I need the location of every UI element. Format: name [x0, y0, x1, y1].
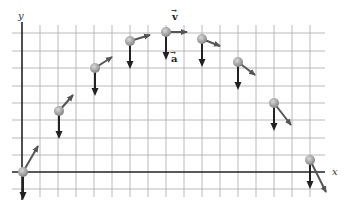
- ball-icon: [161, 27, 171, 37]
- acceleration-label-arrow: →: [170, 48, 176, 57]
- ball-icon: [54, 106, 64, 116]
- axes: y x: [12, 10, 338, 200]
- ball-icon: [90, 63, 100, 73]
- trajectory-point: [305, 155, 326, 192]
- velocity-arrow-icon: [310, 160, 326, 192]
- ball-icon: [233, 57, 243, 67]
- trajectory-point: [233, 57, 255, 88]
- trajectory-point: [197, 34, 220, 65]
- projectile-diagram: y x v → a →: [0, 0, 346, 209]
- velocity-label-arrow: →: [171, 6, 177, 15]
- vector-labels: v → a →: [170, 6, 179, 64]
- y-axis-label: y: [17, 10, 24, 21]
- ball-icon: [197, 34, 207, 44]
- ball-icon: [269, 98, 279, 108]
- trajectory-point: [54, 95, 73, 137]
- ball-icon: [305, 155, 315, 165]
- x-axis-label: x: [332, 166, 338, 177]
- trajectory-point: [90, 57, 112, 94]
- ball-icon: [18, 167, 28, 177]
- ball-icon: [125, 36, 135, 46]
